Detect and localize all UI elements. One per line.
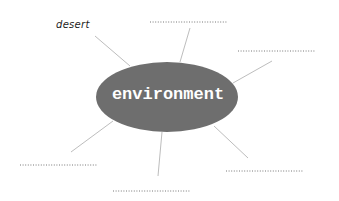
connector-top: [180, 28, 190, 62]
connector-lower-left: [71, 121, 113, 152]
spider-diagram: desert environment: [0, 0, 339, 201]
connector-lower-right: [214, 126, 248, 158]
connector-bottom: [158, 132, 162, 176]
connector-desert: [95, 36, 130, 66]
center-label: environment: [97, 85, 239, 104]
branch-label-desert: desert: [56, 19, 90, 30]
connector-right: [233, 61, 272, 83]
